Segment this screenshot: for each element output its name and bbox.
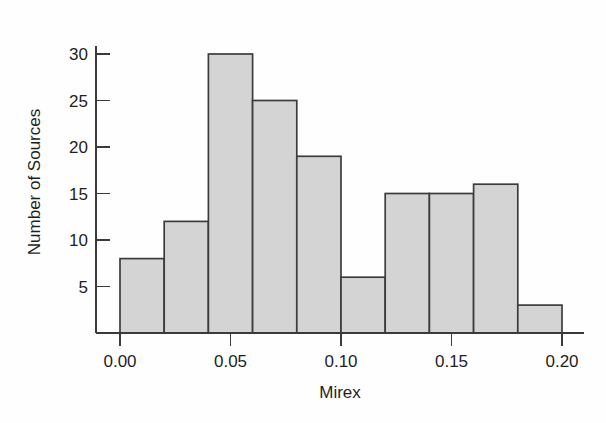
x-axis-ticks: 0.000.050.100.150.20 — [103, 333, 578, 371]
histogram-bars — [120, 54, 562, 333]
histogram-plot: 51015202530 0.000.050.100.150.20 Mirex N… — [0, 0, 606, 423]
x-tick-label: 0.10 — [324, 352, 357, 371]
y-axis-title: Number of Sources — [25, 109, 44, 255]
y-tick-label: 30 — [69, 45, 88, 64]
y-axis-ticks: 51015202530 — [69, 45, 110, 297]
histogram-bar — [164, 221, 208, 333]
histogram-bar — [518, 305, 562, 333]
histogram-bar — [208, 54, 252, 333]
x-tick-label: 0.15 — [435, 352, 468, 371]
histogram-bar — [385, 194, 429, 334]
histogram-bar — [341, 277, 385, 333]
y-tick-label: 10 — [69, 231, 88, 250]
histogram-bar — [120, 259, 164, 333]
x-tick-label: 0.20 — [545, 352, 578, 371]
y-tick-label: 5 — [79, 278, 88, 297]
y-tick-label: 25 — [69, 92, 88, 111]
y-tick-label: 20 — [69, 138, 88, 157]
histogram-figure: 51015202530 0.000.050.100.150.20 Mirex N… — [0, 0, 606, 423]
histogram-bar — [297, 156, 341, 333]
x-axis-title: Mirex — [319, 383, 361, 402]
x-tick-label: 0.05 — [214, 352, 247, 371]
histogram-bar — [474, 184, 518, 333]
histogram-bar — [253, 101, 297, 334]
y-tick-label: 15 — [69, 185, 88, 204]
histogram-bar — [429, 194, 473, 334]
x-tick-label: 0.00 — [103, 352, 136, 371]
